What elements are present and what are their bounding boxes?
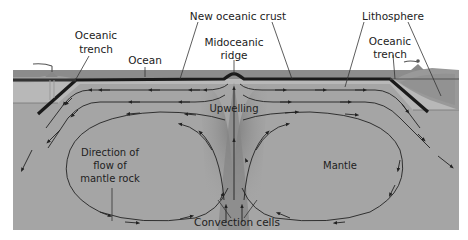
label-ocean: Ocean [128, 54, 162, 66]
label-oceanic-trench-right-2: trench [373, 48, 407, 60]
label-midoceanic-ridge: Midoceanic [204, 36, 263, 48]
label-direction-of-flow: Direction of [81, 147, 139, 158]
label-convection-cells: Convection cells [194, 216, 280, 228]
label-upwelling: Upwelling [209, 103, 258, 114]
label-lithosphere: Lithosphere [362, 10, 424, 22]
label-oceanic-trench-left: Oceanic [75, 29, 118, 41]
label-mantle: Mantle [323, 160, 357, 171]
label-midoceanic-ridge-2: ridge [220, 49, 247, 61]
label-direction-of-flow-2: flow of [93, 160, 127, 171]
volcano-right-icon [404, 59, 424, 70]
convection-diagram: New oceanic crust Lithosphere Oceanic tr… [0, 0, 468, 240]
label-direction-of-flow-3: mantle rock [80, 173, 140, 184]
label-oceanic-trench-right: Oceanic [369, 35, 412, 47]
label-oceanic-trench-left-2: trench [79, 43, 113, 55]
label-new-oceanic-crust: New oceanic crust [190, 10, 286, 22]
